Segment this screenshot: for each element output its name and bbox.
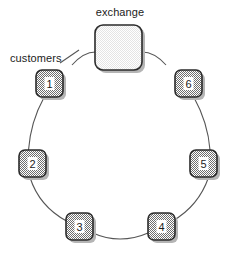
exchange-node-box[interactable] xyxy=(95,25,142,70)
link-6-exchange xyxy=(142,52,166,65)
customers-label: customers xyxy=(10,52,62,64)
node-label: 6 xyxy=(185,78,191,90)
exchange-node[interactable] xyxy=(95,25,145,73)
link-2-3 xyxy=(30,178,67,222)
customer-node-4[interactable]: 4 xyxy=(148,213,178,243)
link-5-6 xyxy=(194,98,210,151)
link-1-2 xyxy=(29,98,45,151)
customer-node-2[interactable]: 2 xyxy=(19,150,49,180)
node-label: 4 xyxy=(158,221,164,233)
link-exchange-1 xyxy=(72,52,96,65)
link-3-4 xyxy=(93,233,148,239)
customer-node-5[interactable]: 5 xyxy=(190,150,220,180)
customer-node-1[interactable]: 1 xyxy=(36,70,66,100)
node-label: 5 xyxy=(200,158,206,170)
node-label: 3 xyxy=(76,221,82,233)
customer-node-3[interactable]: 3 xyxy=(66,213,96,243)
customer-node-6[interactable]: 6 xyxy=(175,70,205,100)
node-label: 2 xyxy=(29,158,35,170)
exchange-label: exchange xyxy=(92,6,148,18)
node-label: 1 xyxy=(46,78,52,90)
customer-nodes: 123456 xyxy=(19,70,220,243)
link-4-5 xyxy=(173,178,209,222)
ring-network-diagram: 123456 exchange customers xyxy=(0,0,239,259)
diagram-canvas: 123456 xyxy=(0,0,239,259)
